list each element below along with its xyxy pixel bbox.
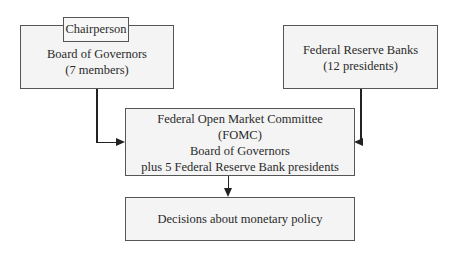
banks-connector-vertical: [360, 89, 362, 143]
arrow-left-icon: [354, 138, 363, 146]
fomc-title: Federal Open Market Committee: [126, 111, 354, 127]
fomc-board: Board of Governors: [126, 143, 354, 159]
fomc-abbrev: (FOMC): [126, 127, 354, 143]
decisions-box: Decisions about monetary policy: [125, 197, 355, 241]
federal-reserve-banks-box: Federal Reserve Banks (12 presidents): [283, 25, 438, 89]
chairperson-box: Chairperson: [63, 17, 129, 42]
fomc-box: Federal Open Market Committee (FOMC) Boa…: [125, 108, 355, 176]
board-title: Board of Governors: [21, 46, 173, 62]
board-members: (7 members): [21, 62, 173, 78]
arrow-down-icon: [224, 188, 232, 197]
board-connector-horizontal: [96, 142, 118, 144]
arrow-right-icon: [116, 138, 125, 146]
decisions-label: Decisions about monetary policy: [158, 212, 323, 226]
chairperson-label: Chairperson: [65, 22, 126, 36]
banks-title: Federal Reserve Banks: [284, 42, 437, 58]
fomc-presidents: plus 5 Federal Reserve Bank presidents: [126, 159, 354, 175]
board-connector-vertical: [96, 89, 98, 143]
banks-presidents: (12 presidents): [284, 58, 437, 74]
